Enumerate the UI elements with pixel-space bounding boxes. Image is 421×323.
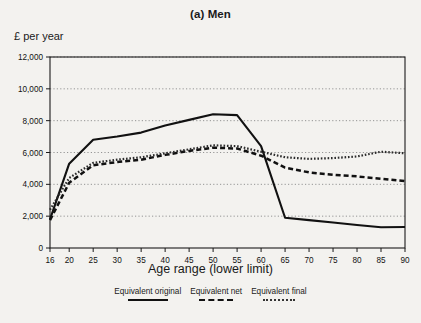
chart-legend: Equivalent original Equivalent net Equiv…: [0, 288, 421, 305]
svg-text:4,000: 4,000: [23, 180, 44, 189]
series-line-dotted: [50, 145, 405, 209]
grid-lines: [50, 57, 405, 216]
series-line-solid: [50, 114, 405, 227]
svg-text:8,000: 8,000: [23, 117, 44, 126]
svg-text:6,000: 6,000: [23, 149, 44, 158]
legend-item-equivalent-final: Equivalent final: [251, 288, 307, 305]
series-lines: [50, 114, 405, 227]
svg-text:2,000: 2,000: [23, 212, 44, 221]
legend-swatch-dotted-icon: [263, 299, 295, 305]
legend-label: Equivalent original: [114, 288, 181, 297]
x-axis-title: Age range (lower limit): [0, 262, 421, 276]
legend-item-equivalent-net: Equivalent net: [190, 288, 242, 305]
svg-text:12,000: 12,000: [18, 53, 43, 62]
svg-text:0: 0: [38, 244, 43, 253]
chart-figure: (a) Men £ per year 12,00010,0008,0006,00…: [0, 0, 421, 323]
legend-label: Equivalent net: [190, 288, 242, 297]
y-axis-ticks: 12,00010,0008,0006,0004,0002,0000: [18, 53, 50, 253]
svg-text:10,000: 10,000: [18, 85, 43, 94]
legend-label: Equivalent final: [251, 288, 307, 297]
legend-item-equivalent-original: Equivalent original: [114, 288, 181, 305]
legend-swatch-solid-icon: [128, 299, 168, 305]
legend-swatch-dashed-icon: [199, 299, 233, 305]
